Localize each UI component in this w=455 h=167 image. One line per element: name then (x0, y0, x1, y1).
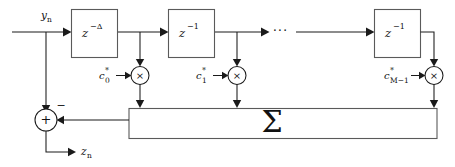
input-label-sub: n (47, 15, 52, 24)
coefficient-cm1-sub: M−1 (390, 76, 409, 85)
ellipsis-label: ··· (273, 24, 288, 38)
delay-block-m-1: z −1 (375, 10, 421, 58)
input-signal-yn: y n (40, 9, 52, 24)
multiplier-3: × (425, 67, 443, 85)
summation-bar: Σ (129, 104, 437, 139)
mult1-to-sigma (136, 85, 144, 109)
tap-line-3 (421, 32, 439, 67)
adder-node: + − (35, 99, 66, 131)
adder-plus-symbol: + (41, 112, 52, 127)
output-signal-zn: z n (80, 145, 92, 160)
adder-minus-symbol: − (56, 99, 65, 112)
tap-line-2 (233, 32, 241, 67)
coefficient-c1-sub: 1 (202, 76, 207, 85)
delay-block-1: z −1 (169, 10, 215, 58)
multiplier-3-symbol: × (430, 70, 438, 81)
delay-block-delta-base: z (81, 26, 89, 40)
input-line-segment (12, 28, 72, 37)
output-label-sub: n (87, 151, 92, 160)
output-label-base: z (80, 145, 87, 157)
delay-block-m-1-exponent: −1 (393, 22, 405, 31)
sigma-to-adder-line (57, 116, 130, 124)
multiplier-2: × (228, 67, 246, 85)
coefficient-cm1-feed (411, 72, 426, 79)
coefficient-c1-feed (213, 72, 229, 79)
path-block2-to-ellipsis (214, 28, 270, 37)
delay-block-delta: z −Δ (72, 10, 118, 58)
coefficient-c0-feed (116, 72, 132, 79)
coefficient-cm1: c * M−1 (384, 66, 409, 85)
diagram-svg: z −Δ z −1 ··· z −1 (0, 0, 455, 167)
mult2-to-sigma (233, 85, 241, 109)
multiplier-1: × (131, 67, 149, 85)
multiplier-1-symbol: × (136, 70, 144, 81)
coefficient-c1: c * 1 (196, 66, 207, 85)
input-tap-vertical (42, 32, 50, 113)
mult3-to-sigma (430, 85, 438, 109)
delay-block-1-exponent: −1 (187, 22, 199, 31)
delay-block-delta-exponent: −Δ (90, 22, 103, 31)
block-diagram-canvas: z −Δ z −1 ··· z −1 (0, 0, 455, 167)
coefficient-cm1-star: * (390, 66, 394, 75)
coefficient-c0: c * 0 (99, 66, 110, 85)
path-block1-to-block2 (117, 28, 169, 37)
coefficient-c0-star: * (105, 66, 109, 75)
output-path-zn (46, 131, 76, 156)
coefficient-c0-sub: 0 (105, 76, 110, 85)
tap-line-1 (136, 32, 144, 67)
delay-block-1-base: z (178, 26, 186, 40)
delay-block-m-1-base: z (384, 26, 392, 40)
path-ellipsis-to-block3 (296, 28, 375, 37)
summation-symbol: Σ (261, 104, 282, 139)
coefficient-c1-star: * (202, 66, 206, 75)
multiplier-2-symbol: × (233, 70, 241, 81)
